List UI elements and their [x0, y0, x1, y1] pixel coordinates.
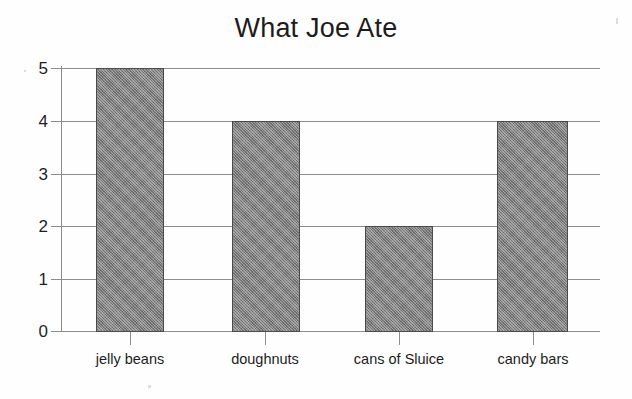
y-axis-label-0: 0	[28, 323, 48, 340]
chart-page: What Joe Ate 5 4 3 2 1 0	[0, 0, 632, 399]
x-tick-candy-bars	[533, 332, 534, 345]
y-axis-labels: 5 4 3 2 1 0	[0, 0, 632, 399]
y-axis-label-5: 5	[28, 60, 48, 77]
y-axis-label-4: 4	[28, 113, 48, 130]
y-axis-label-3: 3	[28, 166, 48, 183]
x-axis-label-cans-of-sluice: cans of Sluice	[329, 350, 469, 368]
x-tick-jelly-beans	[130, 332, 131, 345]
y-axis-label-1: 1	[28, 271, 48, 288]
x-tick-cans-of-sluice	[399, 332, 400, 345]
x-axis-label-candy-bars: candy bars	[463, 350, 603, 368]
x-axis-label-jelly-beans: jelly beans	[60, 350, 200, 368]
x-tick-doughnuts	[265, 332, 266, 345]
y-axis-label-2: 2	[28, 218, 48, 235]
x-axis-label-doughnuts: doughnuts	[195, 350, 335, 368]
